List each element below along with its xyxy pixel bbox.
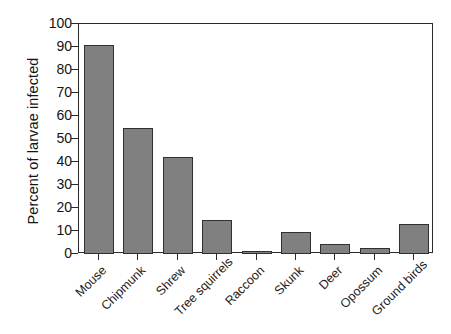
y-tick-mark	[71, 46, 78, 47]
y-tick-label: 90	[28, 39, 72, 53]
y-tick-mark	[71, 138, 78, 139]
y-tick-label: 60	[28, 108, 72, 122]
y-tick-label: 30	[28, 177, 72, 191]
y-tick-label: 50	[28, 131, 72, 145]
x-tick-mark	[137, 253, 138, 260]
y-tick-mark	[71, 230, 78, 231]
y-tick-label: 70	[28, 85, 72, 99]
y-tick-label: 0	[28, 246, 72, 260]
bar	[320, 244, 350, 254]
y-tick-mark	[71, 207, 78, 208]
bar	[123, 128, 153, 255]
y-tick-mark	[71, 69, 78, 70]
bar	[163, 157, 193, 254]
y-tick-mark	[71, 23, 78, 24]
bar-chart-figure: Percent of larvae infected 0102030405060…	[0, 0, 451, 334]
y-tick-label: 20	[28, 200, 72, 214]
y-tick-label: 80	[28, 62, 72, 76]
y-tick-label: 10	[28, 223, 72, 237]
x-tick-mark	[216, 253, 217, 260]
x-tick-mark	[177, 253, 178, 260]
bar	[360, 248, 390, 254]
x-tick-mark	[295, 253, 296, 260]
x-tick-mark	[256, 253, 257, 260]
y-tick-mark	[71, 184, 78, 185]
y-tick-mark	[71, 92, 78, 93]
bar	[242, 251, 272, 254]
plot-area	[78, 23, 433, 253]
x-tick-mark	[413, 253, 414, 260]
y-tick-label: 40	[28, 154, 72, 168]
bar	[84, 45, 114, 254]
bar	[399, 224, 429, 254]
y-tick-mark	[71, 115, 78, 116]
y-tick-mark	[71, 253, 78, 254]
x-tick-mark	[334, 253, 335, 260]
x-tick-mark	[98, 253, 99, 260]
bar	[202, 220, 232, 255]
bar	[281, 232, 311, 254]
y-tick-label: 100	[28, 16, 72, 30]
y-axis-tick-labels: 0102030405060708090100	[26, 0, 72, 334]
x-tick-mark	[374, 253, 375, 260]
y-tick-mark	[71, 161, 78, 162]
